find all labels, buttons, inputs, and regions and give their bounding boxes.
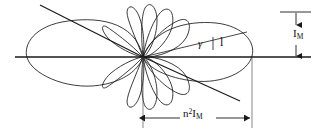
vertical-dimension-label: IM [293, 28, 303, 40]
ray-length-label: l [220, 36, 223, 48]
forward-major-lobe [143, 22, 253, 81]
side-lobe-2 [143, 9, 173, 57]
diagram-canvas [0, 0, 318, 137]
lower-right-ray [143, 57, 240, 101]
angle-gamma-label: γ [198, 38, 202, 49]
horizontal-dimension-label: n2IM [183, 108, 203, 120]
im-subscript: M [297, 32, 304, 41]
radiation-pattern-figure: γ l IM n2IM [0, 0, 318, 137]
rear-major-lobe [26, 20, 143, 86]
n2im-subscript: M [196, 112, 203, 121]
side-lobe-6 [143, 57, 189, 95]
